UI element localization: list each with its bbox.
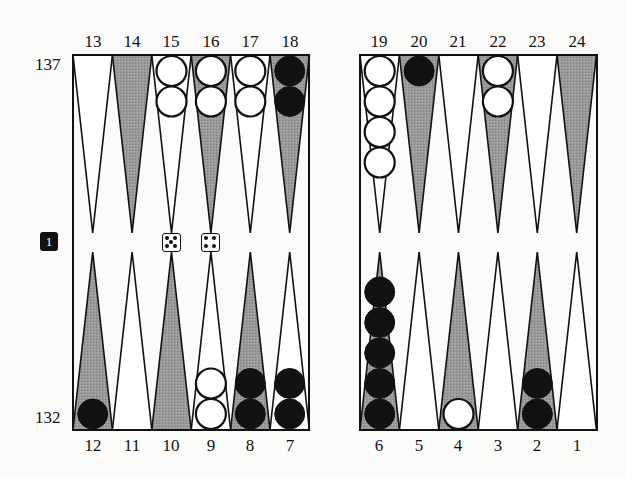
die-pip: [165, 236, 169, 240]
white-checker[interactable]: [196, 369, 226, 399]
black-checker[interactable]: [404, 56, 434, 86]
black-checker[interactable]: [275, 369, 305, 399]
black-checker[interactable]: [365, 338, 395, 368]
point-10[interactable]: [152, 252, 191, 430]
white-checker[interactable]: [196, 399, 226, 429]
black-checker[interactable]: [78, 399, 108, 429]
white-checker[interactable]: [365, 148, 395, 178]
white-checker[interactable]: [157, 56, 187, 86]
die-pip: [169, 240, 173, 244]
white-checker[interactable]: [235, 87, 265, 117]
point-14[interactable]: [112, 55, 151, 233]
die-four[interactable]: [201, 233, 220, 252]
white-checker[interactable]: [157, 87, 187, 117]
black-checker[interactable]: [275, 56, 305, 86]
black-checker[interactable]: [365, 277, 395, 307]
right-board-frame: [360, 55, 597, 430]
black-checker[interactable]: [235, 399, 265, 429]
white-checker[interactable]: [444, 399, 474, 429]
white-checker[interactable]: [196, 87, 226, 117]
point-5[interactable]: [399, 252, 438, 430]
white-checker[interactable]: [483, 56, 513, 86]
backgammon-board[interactable]: [0, 0, 625, 479]
black-checker[interactable]: [365, 308, 395, 338]
left-board-frame: [73, 55, 309, 430]
die-pip: [173, 244, 177, 248]
die-pip: [204, 236, 208, 240]
black-checker[interactable]: [365, 369, 395, 399]
black-checker[interactable]: [275, 399, 305, 429]
point-11[interactable]: [112, 252, 151, 430]
doubling-cube[interactable]: 1: [40, 232, 58, 251]
black-checker[interactable]: [522, 399, 552, 429]
checkers-layer[interactable]: [78, 56, 553, 429]
point-13[interactable]: [73, 55, 112, 233]
point-24[interactable]: [557, 55, 596, 233]
white-checker[interactable]: [365, 117, 395, 147]
white-checker[interactable]: [196, 56, 226, 86]
point-1[interactable]: [557, 252, 596, 430]
white-checker[interactable]: [483, 87, 513, 117]
black-checker[interactable]: [365, 399, 395, 429]
white-checker[interactable]: [365, 56, 395, 86]
black-checker[interactable]: [235, 369, 265, 399]
die-pip: [212, 236, 216, 240]
point-23[interactable]: [518, 55, 557, 233]
point-3[interactable]: [478, 252, 517, 430]
white-checker[interactable]: [235, 56, 265, 86]
die-pip: [212, 244, 216, 248]
die-pip: [165, 244, 169, 248]
die-pip: [204, 244, 208, 248]
white-checker[interactable]: [365, 87, 395, 117]
black-checker[interactable]: [275, 87, 305, 117]
black-checker[interactable]: [522, 369, 552, 399]
die-pip: [173, 236, 177, 240]
die-five[interactable]: [162, 233, 181, 252]
points-layer: [73, 55, 596, 430]
point-21[interactable]: [439, 55, 478, 233]
